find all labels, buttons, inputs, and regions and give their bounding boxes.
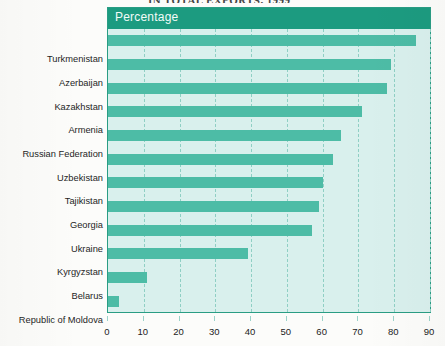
category-label: Turkmenistan <box>0 54 103 64</box>
gridline <box>430 29 431 312</box>
axis-tick <box>250 316 251 321</box>
axis-tick <box>286 316 287 321</box>
value-axis: 0102030405060708090 <box>107 316 437 342</box>
bar <box>108 59 391 70</box>
gridline <box>251 29 252 312</box>
gridline <box>394 29 395 312</box>
axis-tick <box>214 316 215 321</box>
category-label: Tajikistan <box>0 196 103 206</box>
gridline <box>358 29 359 312</box>
bar <box>108 130 341 141</box>
axis-tick <box>357 316 358 321</box>
axis-tick <box>322 316 323 321</box>
gridline <box>180 29 181 312</box>
legend-caption: Percentage <box>115 10 178 24</box>
bar <box>108 154 333 165</box>
bar <box>108 201 319 212</box>
axis-tick-label: 40 <box>245 326 256 337</box>
category-label: Ukraine <box>0 244 103 254</box>
gridline <box>215 29 216 312</box>
bar-chart: Percentage <box>107 7 431 313</box>
gridline <box>144 29 145 312</box>
bar <box>108 225 312 236</box>
bar <box>108 177 323 188</box>
axis-tick <box>143 316 144 321</box>
category-label: Belarus <box>0 291 103 301</box>
axis-tick-label: 0 <box>104 326 109 337</box>
scanned-page: IN TOTAL EXPORTS, 1999 TurkmenistanAzerb… <box>0 0 445 346</box>
category-label: Azerbaijan <box>0 78 103 88</box>
category-label: Kazakhstan <box>0 102 103 112</box>
gridline <box>287 29 288 312</box>
bar <box>108 106 362 117</box>
axis-tick-label: 70 <box>352 326 363 337</box>
axis-tick-label: 20 <box>173 326 184 337</box>
bar <box>108 296 119 307</box>
chart-title: IN TOTAL EXPORTS, 1999 <box>148 0 378 3</box>
gridline <box>323 29 324 312</box>
axis-tick-label: 80 <box>388 326 399 337</box>
plot-area <box>108 29 430 312</box>
category-label: Russian Federation <box>0 149 103 159</box>
bar <box>108 272 147 283</box>
axis-tick-label: 30 <box>209 326 220 337</box>
axis-tick-label: 90 <box>424 326 435 337</box>
axis-tick-label: 60 <box>316 326 327 337</box>
axis-tick <box>107 316 108 321</box>
axis-tick <box>179 316 180 321</box>
category-label: Uzbekistan <box>0 173 103 183</box>
axis-tick <box>429 316 430 321</box>
bar <box>108 35 416 46</box>
bar <box>108 248 248 259</box>
category-label: Republic of Moldova <box>0 315 103 325</box>
category-label: Armenia <box>0 125 103 135</box>
legend-band: Percentage <box>108 8 430 29</box>
axis-tick-label: 10 <box>137 326 148 337</box>
category-label: Kyrgyzstan <box>0 267 103 277</box>
bar <box>108 83 387 94</box>
axis-tick-label: 50 <box>281 326 292 337</box>
axis-tick <box>393 316 394 321</box>
category-label: Georgia <box>0 220 103 230</box>
